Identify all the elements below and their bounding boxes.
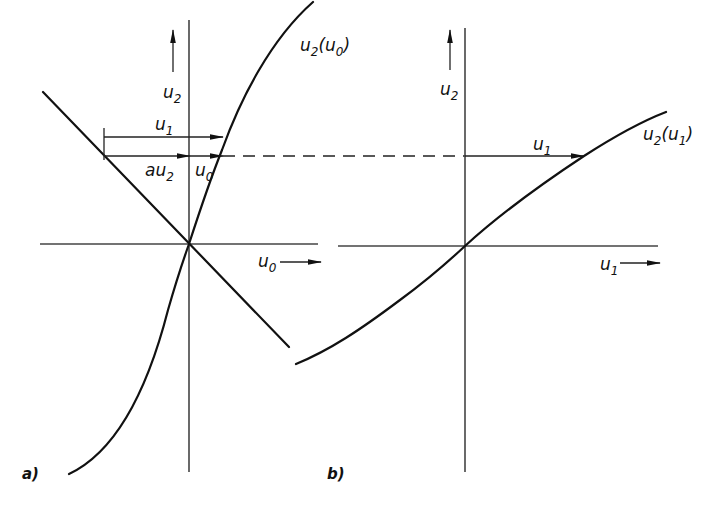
panel-b-u1-label: u1 bbox=[533, 134, 551, 158]
panel-a-x-axis-label: u0 bbox=[258, 251, 277, 275]
panel-b: u2 u1 u1 u2(u1) b) bbox=[296, 28, 693, 483]
panel-a-curve-label: u2(u0) bbox=[300, 35, 350, 59]
panel-a-au2-label: au2 bbox=[145, 160, 174, 184]
panel-a-caption: a) bbox=[22, 465, 39, 483]
panel-a-y-axis-label: u2 bbox=[163, 82, 181, 106]
panel-a-transfer-curve bbox=[69, 2, 313, 474]
feedback-characteristic-diagram: u2 u0 u2(u0) u1 au2 u0 a) u2 u1 bbox=[0, 0, 724, 514]
panel-b-x-axis-label: u1 bbox=[600, 254, 618, 278]
panel-a-u1-label: u1 bbox=[155, 114, 173, 138]
panel-a-u0-segment-label: u0 bbox=[195, 160, 214, 184]
panel-b-curve-label: u2(u1) bbox=[643, 124, 693, 148]
panel-a: u2 u0 u2(u0) u1 au2 u0 a) bbox=[22, 2, 350, 483]
panel-b-y-axis-label: u2 bbox=[440, 79, 458, 103]
panel-b-caption: b) bbox=[327, 465, 345, 483]
panel-b-transfer-curve bbox=[296, 112, 666, 364]
